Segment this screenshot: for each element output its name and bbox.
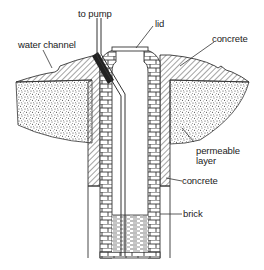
- label-lid: lid: [155, 19, 164, 29]
- permeable-layer-left: [16, 80, 92, 143]
- label-water-channel: water channel: [18, 40, 76, 50]
- label-permeable-layer-line2: layer: [196, 156, 216, 166]
- leader-lid: [136, 26, 153, 48]
- permeable-layer-right: [170, 80, 249, 144]
- well-lid: [112, 47, 148, 51]
- label-to-pump: to pump: [78, 9, 112, 19]
- brick-floor: [100, 252, 160, 258]
- well-water: [112, 215, 148, 252]
- label-concrete-top: concrete: [212, 34, 248, 44]
- label-concrete-side: concrete: [182, 176, 218, 186]
- leader-water-channel: [43, 50, 52, 68]
- label-brick: brick: [183, 209, 203, 219]
